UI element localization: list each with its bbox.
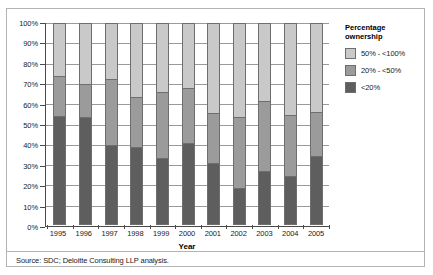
y-axis-tick-label: 40% bbox=[23, 141, 38, 150]
bar-segment-under-20 bbox=[311, 156, 322, 224]
bar-segment-under-20 bbox=[259, 171, 270, 224]
bar-segment-under-20 bbox=[80, 117, 91, 224]
bar-segment-under-20 bbox=[208, 163, 219, 224]
bar-slot bbox=[252, 23, 278, 225]
bar-segment-20-50 bbox=[311, 112, 322, 156]
y-axis-tick bbox=[40, 43, 45, 44]
bar-segment-20-50 bbox=[54, 76, 65, 116]
legend-title: Percentage ownership bbox=[345, 23, 423, 41]
y-axis-tick bbox=[40, 166, 45, 167]
stacked-bar[interactable] bbox=[207, 23, 220, 225]
bar-segment-under-20 bbox=[234, 188, 245, 224]
bar-segment-20-50 bbox=[285, 115, 296, 176]
source-note: Source: SDC; Deloitte Consulting LLP ana… bbox=[16, 256, 169, 265]
bar-segment-20-50 bbox=[157, 92, 168, 158]
bar-segment-20-50 bbox=[131, 97, 142, 147]
x-axis-tick-label: 1997 bbox=[97, 229, 123, 241]
legend-item-label: 20% - <50% bbox=[361, 66, 401, 75]
stacked-bar[interactable] bbox=[105, 23, 118, 225]
bar-segment-50-100 bbox=[54, 24, 65, 76]
stacked-bar[interactable] bbox=[310, 23, 323, 225]
bar-segment-20-50 bbox=[80, 84, 91, 117]
y-axis-tick-label: 30% bbox=[23, 161, 38, 170]
stacked-bar[interactable] bbox=[258, 23, 271, 225]
legend-item[interactable]: 50% - <100% bbox=[345, 48, 423, 59]
bars-group bbox=[47, 23, 329, 225]
bar-segment-under-20 bbox=[106, 145, 117, 224]
chart-figure: 0%10%20%30%40%50%60%70%80%90%100% 199519… bbox=[6, 8, 425, 267]
x-axis-title: Year bbox=[45, 242, 329, 251]
legend-item-label: 50% - <100% bbox=[361, 49, 405, 58]
x-axis-tick-label: 2002 bbox=[226, 229, 252, 241]
stacked-bar[interactable] bbox=[130, 23, 143, 225]
x-axis-tick-label: 2003 bbox=[252, 229, 278, 241]
bar-slot bbox=[47, 23, 73, 225]
y-axis-tick-label: 0% bbox=[27, 223, 38, 232]
stacked-bar[interactable] bbox=[53, 23, 66, 225]
y-axis-tick bbox=[40, 23, 45, 24]
footer-divider bbox=[7, 251, 424, 252]
x-axis-tick-labels: 1995199619971998199920002001200220032004… bbox=[45, 229, 329, 241]
bar-segment-50-100 bbox=[106, 24, 117, 79]
bar-slot bbox=[278, 23, 304, 225]
y-axis-tick bbox=[40, 145, 45, 146]
y-axis-tick bbox=[40, 207, 45, 208]
bar-slot bbox=[73, 23, 99, 225]
x-axis-tick-label: 2005 bbox=[303, 229, 329, 241]
bar-slot bbox=[124, 23, 150, 225]
stacked-bar[interactable] bbox=[182, 23, 195, 225]
stacked-bar[interactable] bbox=[233, 23, 246, 225]
bar-segment-20-50 bbox=[259, 101, 270, 171]
x-axis-tick-label: 1999 bbox=[148, 229, 174, 241]
bar-slot bbox=[175, 23, 201, 225]
y-axis-tick-label: 90% bbox=[23, 39, 38, 48]
legend-swatch bbox=[345, 65, 356, 76]
y-axis-tick bbox=[40, 105, 45, 106]
bar-segment-under-20 bbox=[285, 176, 296, 224]
y-axis-tick bbox=[40, 227, 45, 228]
y-axis-tick-label: 50% bbox=[23, 121, 38, 130]
legend-item[interactable]: 20% - <50% bbox=[345, 65, 423, 76]
x-axis-tick bbox=[329, 225, 330, 229]
y-axis-tick-label: 70% bbox=[23, 80, 38, 89]
chart-legend: Percentage ownership 50% - <100%20% - <5… bbox=[345, 23, 423, 99]
bar-segment-20-50 bbox=[234, 117, 245, 188]
bar-segment-50-100 bbox=[234, 24, 245, 117]
legend-item-label: <20% bbox=[361, 83, 380, 92]
bar-slot bbox=[98, 23, 124, 225]
bar-segment-50-100 bbox=[285, 24, 296, 115]
x-axis-tick-label: 2000 bbox=[174, 229, 200, 241]
stacked-bar[interactable] bbox=[284, 23, 297, 225]
bar-segment-50-100 bbox=[259, 24, 270, 101]
bar-segment-50-100 bbox=[131, 24, 142, 97]
x-axis-tick-label: 1998 bbox=[122, 229, 148, 241]
bar-segment-50-100 bbox=[208, 24, 219, 113]
bar-segment-50-100 bbox=[183, 24, 194, 88]
y-axis-tick-label: 80% bbox=[23, 59, 38, 68]
y-axis-tick bbox=[40, 84, 45, 85]
bar-segment-20-50 bbox=[208, 113, 219, 163]
stacked-bar[interactable] bbox=[79, 23, 92, 225]
bar-slot bbox=[226, 23, 252, 225]
legend-swatch bbox=[345, 82, 356, 93]
bar-segment-20-50 bbox=[183, 88, 194, 143]
legend-item[interactable]: <20% bbox=[345, 82, 423, 93]
x-axis-tick-label: 2004 bbox=[277, 229, 303, 241]
plot-area bbox=[45, 23, 329, 227]
bar-slot bbox=[303, 23, 329, 225]
stacked-bar[interactable] bbox=[156, 23, 169, 225]
legend-title-line1: Percentage bbox=[345, 23, 423, 32]
bar-segment-under-20 bbox=[54, 116, 65, 224]
bar-slot bbox=[150, 23, 176, 225]
legend-items-group: 50% - <100%20% - <50%<20% bbox=[345, 48, 423, 93]
bar-segment-50-100 bbox=[157, 24, 168, 92]
x-axis-tick-label: 1996 bbox=[71, 229, 97, 241]
y-axis-tick bbox=[40, 64, 45, 65]
y-axis-tick-label: 60% bbox=[23, 100, 38, 109]
bar-segment-under-20 bbox=[131, 147, 142, 224]
y-axis-tick-label: 10% bbox=[23, 202, 38, 211]
plot-area-wrapper: 0%10%20%30%40%50%60%70%80%90%100% bbox=[45, 23, 329, 227]
bar-segment-under-20 bbox=[183, 143, 194, 224]
bar-segment-50-100 bbox=[80, 24, 91, 84]
legend-swatch bbox=[345, 48, 356, 59]
